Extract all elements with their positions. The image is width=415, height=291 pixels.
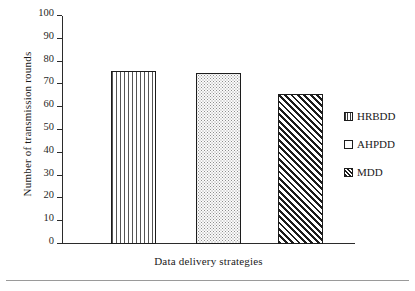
bar-mdd bbox=[278, 94, 323, 244]
legend-item-ahpdd: AHPDD bbox=[344, 138, 414, 150]
y-axis-tick-label: 60 bbox=[44, 99, 55, 109]
y-axis-tick-label: 40 bbox=[44, 145, 55, 155]
legend-item-hrbdd: HRBDD bbox=[344, 110, 414, 122]
bar-ahpdd bbox=[196, 73, 241, 244]
y-axis-tick-label: 0 bbox=[49, 236, 54, 246]
y-axis-tick-label: 90 bbox=[44, 31, 55, 41]
legend-swatch-icon bbox=[344, 168, 353, 177]
legend-item-mdd: MDD bbox=[344, 166, 414, 178]
y-axis-tick-label: 50 bbox=[44, 122, 55, 132]
y-axis-tick-label: 70 bbox=[44, 76, 55, 86]
y-axis-tick-label: 100 bbox=[38, 8, 54, 18]
bar-chart-figure: 1009080706050403020100 Data delivery str… bbox=[0, 0, 415, 291]
bottom-divider bbox=[6, 280, 409, 281]
legend-swatch-icon bbox=[344, 140, 353, 149]
y-axis-tick-label: 10 bbox=[44, 213, 55, 223]
y-axis-title: Number of transmission rounds bbox=[21, 24, 33, 224]
y-axis-tick-label: 30 bbox=[44, 168, 55, 178]
legend-item-label: HRBDD bbox=[357, 111, 396, 122]
y-axis-tick-label: 80 bbox=[44, 54, 55, 64]
legend-swatch-icon bbox=[344, 112, 353, 121]
legend-item-label: AHPDD bbox=[357, 139, 395, 150]
x-axis-title: Data delivery strategies bbox=[62, 255, 355, 267]
legend-item-label: MDD bbox=[357, 167, 383, 178]
chart-legend: HRBDDAHPDDMDD bbox=[344, 110, 414, 194]
plot-area bbox=[62, 16, 355, 244]
bar-hrbdd bbox=[111, 71, 156, 244]
y-axis-tick-label: 20 bbox=[44, 190, 55, 200]
